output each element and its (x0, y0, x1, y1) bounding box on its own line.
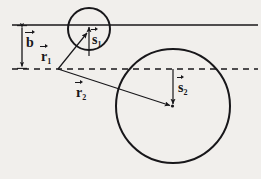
label-r2: r2 (76, 84, 86, 100)
label-r1: r1 (41, 48, 51, 64)
label-s1: s1 (92, 31, 101, 47)
label-s2-subscript: 2 (183, 89, 187, 97)
vector-arrow-r2 (58, 69, 170, 106)
label-b-symbol: b (26, 36, 34, 50)
label-r1-subscript: 1 (47, 58, 51, 66)
vector-geometry-diagram: b r1 r2 s1 s2 (0, 0, 261, 179)
label-s2: s2 (178, 79, 187, 95)
large-circle-center-dot (171, 104, 174, 107)
label-b: b (26, 34, 34, 50)
label-r2-subscript: 2 (82, 94, 86, 102)
label-s1-subscript: 1 (97, 41, 101, 49)
vector-arrow-r1 (58, 33, 87, 69)
diagram-canvas (0, 0, 261, 179)
